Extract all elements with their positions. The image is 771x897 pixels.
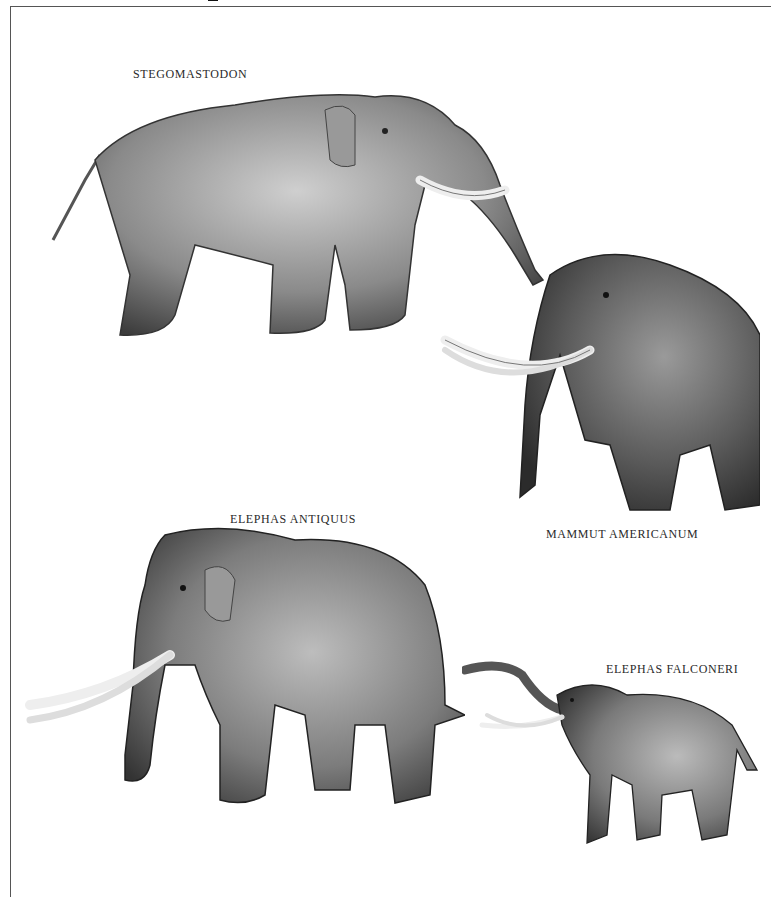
caption-stegomastodon: STEGOMASTODON bbox=[133, 67, 247, 82]
elephas-falconeri-illustration bbox=[462, 655, 760, 850]
elephas-antiquus-illustration bbox=[25, 525, 465, 815]
clipped-heading-glyph bbox=[208, 0, 218, 1]
caption-mammut-americanum: MAMMUT AMERICANUM bbox=[546, 527, 698, 542]
mammut-americanum-illustration bbox=[440, 245, 760, 520]
